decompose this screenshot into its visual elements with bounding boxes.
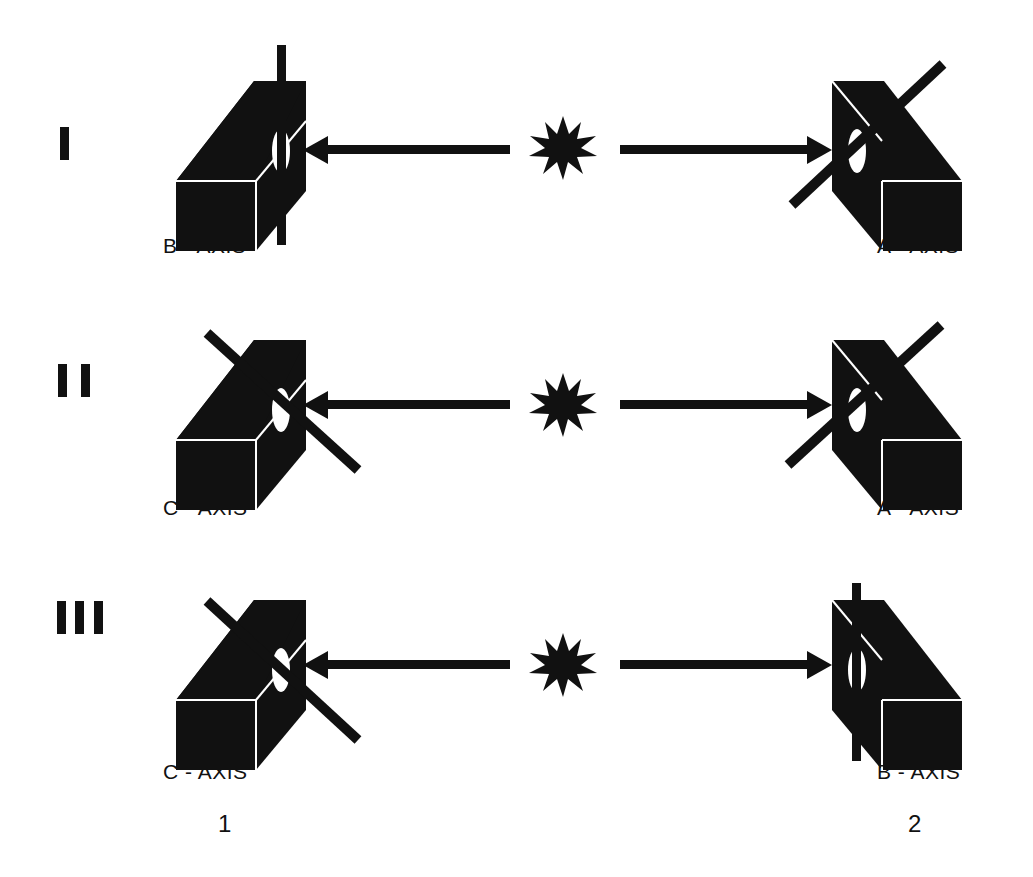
row-3-left-arrow	[303, 651, 510, 679]
row-1-left-detector	[176, 45, 306, 251]
row-1-right-arrow	[620, 136, 832, 164]
column-1-label: 1	[218, 810, 231, 838]
row-3-numeral-bars	[57, 601, 103, 634]
row-3-right-arrow	[620, 651, 832, 679]
row-2-left-detector	[176, 333, 358, 510]
row-3-right-detector	[832, 583, 962, 770]
row-1-left-arrow	[303, 136, 510, 164]
row-2-numeral-bars	[58, 364, 90, 397]
row-2-left-arrow	[303, 391, 510, 419]
diagram-canvas	[0, 0, 1033, 877]
row-2-right-detector	[788, 325, 962, 510]
row-3-right-axis-label: B - AXIS	[877, 760, 960, 784]
row-2-right-axis-label: A - AXIS	[877, 496, 959, 520]
row-3-source-star-icon	[529, 633, 597, 697]
row-1-source-star-icon	[529, 116, 597, 180]
row-3-left-axis-label: C - AXIS	[163, 760, 248, 784]
row-1-numeral-bars	[60, 127, 69, 160]
row-1-left-axis-label: B - AXIS	[163, 234, 246, 258]
row-2-right-arrow	[620, 391, 832, 419]
column-2-label: 2	[908, 810, 921, 838]
row-2-left-axis-label: C - AXIS	[163, 496, 248, 520]
row-1-right-axis-label: A - AXIS	[877, 234, 959, 258]
row-2-source-star-icon	[529, 373, 597, 437]
row-3-left-detector	[176, 600, 358, 770]
